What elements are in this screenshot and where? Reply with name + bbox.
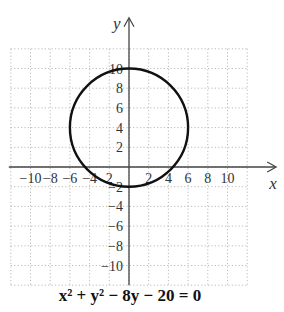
y-axis-label: y: [111, 14, 121, 33]
y-tick-label: −10: [101, 259, 123, 274]
equation-caption: x² + y² − 8y − 20 = 0: [0, 286, 260, 306]
x-tick-label: 6: [185, 171, 192, 186]
y-tick-label: 6: [116, 101, 123, 116]
y-tick-label: 4: [116, 121, 123, 136]
y-tick-label: −6: [108, 219, 123, 234]
x-tick-label: −6: [62, 171, 77, 186]
x-tick-label: −8: [43, 171, 58, 186]
y-tick-label: 2: [116, 140, 123, 155]
x-tick-label: −4: [82, 171, 97, 186]
x-tick-label: −10: [20, 171, 42, 186]
circle-graph: xy−10−8−6−42246810108642−2−4−6−8−10: [0, 0, 284, 312]
x-tick-label: 8: [204, 171, 211, 186]
y-tick-label: −8: [108, 239, 123, 254]
x-tick-label: 10: [221, 171, 235, 186]
y-tick-label: 8: [116, 81, 123, 96]
x-axis-label: x: [268, 174, 277, 193]
y-tick-label: −4: [108, 199, 123, 214]
